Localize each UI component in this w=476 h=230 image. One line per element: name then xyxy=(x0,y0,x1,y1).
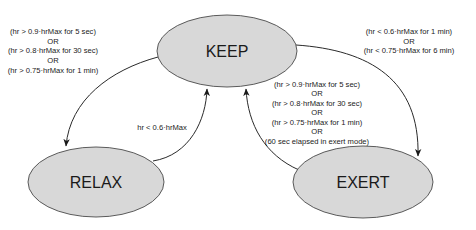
condition-line: OR xyxy=(47,56,59,65)
condition-line: (hr > 0.75·hrMax for 1 min) xyxy=(272,118,363,127)
state-diagram: KEEP RELAX EXERT (hr > 0.9·hrMax for 5 s… xyxy=(0,0,476,230)
state-relax-label: RELAX xyxy=(70,174,123,191)
condition-line: (hr > 0.8·hrMax for 30 sec) xyxy=(272,99,363,108)
condition-line: (hr > 0.75·hrMax for 1 min) xyxy=(8,66,99,75)
condition-line: (60 sec elapsed in exert mode) xyxy=(265,137,370,146)
label-keep-to-exert: (hr < 0.6·hrMax for 1 min) OR (hr < 0.75… xyxy=(364,27,455,55)
condition-line: OR xyxy=(311,89,323,98)
state-relax: RELAX xyxy=(28,147,164,217)
label-exert-to-keep: (hr > 0.9·hrMax for 5 sec) OR (hr > 0.8·… xyxy=(265,80,370,146)
state-exert-label: EXERT xyxy=(336,174,389,191)
condition-line: (hr < 0.6·hrMax for 1 min) xyxy=(366,27,453,36)
condition-line: OR xyxy=(311,108,323,117)
condition-line: OR xyxy=(311,127,323,136)
condition-line: OR xyxy=(47,37,59,46)
state-exert: EXERT xyxy=(293,146,433,218)
condition-line: (hr > 0.8·hrMax for 30 sec) xyxy=(8,46,99,55)
condition-line: (hr > 0.9·hrMax for 5 sec) xyxy=(274,80,360,89)
condition-line: (hr < 0.75·hrMax for 6 min) xyxy=(364,46,455,55)
condition-line: hr < 0.6·hrMax xyxy=(137,123,187,132)
condition-line: OR xyxy=(403,37,415,46)
state-keep-label: KEEP xyxy=(206,43,249,60)
label-keep-to-relax: (hr > 0.9·hrMax for 5 sec) OR (hr > 0.8·… xyxy=(8,27,99,75)
state-keep: KEEP xyxy=(157,15,297,87)
label-relax-to-keep: hr < 0.6·hrMax xyxy=(137,123,187,132)
condition-line: (hr > 0.9·hrMax for 5 sec) xyxy=(10,27,96,36)
